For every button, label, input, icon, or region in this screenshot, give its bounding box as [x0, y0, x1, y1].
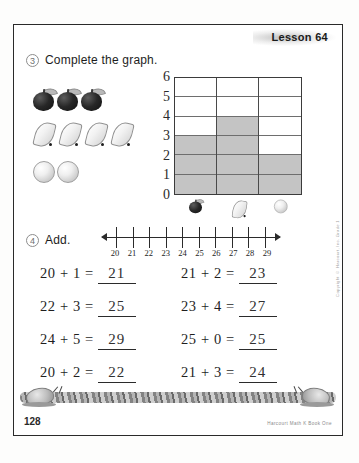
number-line-tick: [199, 227, 200, 248]
number-line-tick: [215, 227, 216, 248]
problem-expression: 22 + 3 =: [40, 298, 94, 315]
problem-answer-blank[interactable]: 25: [239, 331, 277, 350]
lesson-label: Lesson 64: [253, 29, 336, 46]
graph-column-apple[interactable]: [175, 78, 217, 194]
graph-cell[interactable]: [175, 117, 216, 136]
x-axis-banana: [217, 199, 260, 223]
graph-cell[interactable]: [259, 78, 301, 97]
graph-cell[interactable]: [217, 136, 258, 155]
number-line-label: 23: [159, 248, 173, 258]
graph-cell[interactable]: [175, 136, 216, 155]
number-line-tick: [133, 227, 134, 248]
problem-answer-blank[interactable]: 22: [98, 364, 136, 383]
banana-icon: [84, 120, 109, 147]
apple-icon: [56, 88, 79, 111]
exercise-3-instruction: Complete the graph.: [45, 53, 158, 67]
problem-item: 21 + 2 =23: [181, 265, 322, 284]
problem-answer-blank[interactable]: 27: [239, 298, 277, 317]
number-line-tick: [248, 227, 249, 248]
graph-cell[interactable]: [175, 175, 216, 194]
problem-row: 20 + 1 =2121 + 2 =23: [40, 265, 322, 298]
problem-item: 25 + 0 =25: [181, 331, 322, 350]
side-copyright: Copyright © Harcourt, Inc. Grade 1: [335, 220, 340, 297]
problem-item: 20 + 1 =21: [40, 265, 181, 284]
snail-icon: [292, 386, 334, 408]
fruit-key-row-orange: [32, 147, 152, 183]
arrow-left-icon: [101, 233, 107, 241]
apple-icon: [80, 88, 103, 111]
number-line-label: 24: [176, 248, 190, 258]
orange-icon: [274, 199, 288, 213]
y-tick: 4: [163, 112, 170, 120]
worksheet-page: Lesson 64 3 Complete the graph. 6 5 4 3: [13, 24, 343, 436]
graph-y-axis: 6 5 4 3 2 1 0: [154, 73, 170, 199]
problem-list: 20 + 1 =2121 + 2 =2322 + 3 =2523 + 4 =27…: [40, 265, 322, 397]
exercise-4-number: 4: [26, 234, 39, 247]
graph-cell[interactable]: [175, 78, 216, 97]
graph-cell[interactable]: [217, 175, 258, 194]
graph-cell[interactable]: [259, 136, 301, 155]
number-line-label: 29: [260, 248, 274, 258]
insect-trail-icon: [20, 392, 336, 403]
number-line-tick: [116, 227, 117, 248]
problem-item: 21 + 3 =24: [181, 364, 322, 383]
graph-cell[interactable]: [175, 97, 216, 116]
graph-cell[interactable]: [259, 97, 301, 116]
snail-icon: [22, 386, 64, 408]
number-line-label: 21: [125, 248, 139, 258]
number-line-tick: [149, 227, 150, 248]
problem-answer-blank[interactable]: 25: [98, 298, 136, 317]
graph-cell[interactable]: [217, 117, 258, 136]
page-number: 128: [24, 416, 41, 427]
problem-item: 22 + 3 =25: [40, 298, 181, 317]
number-line-tick: [182, 227, 183, 248]
graph-column-orange[interactable]: [259, 78, 301, 194]
graph-cell[interactable]: [175, 155, 216, 174]
graph-grid[interactable]: [174, 77, 302, 195]
problem-expression: 21 + 2 =: [181, 265, 235, 282]
y-tick: 6: [163, 73, 170, 81]
problem-row: 24 + 5 =2925 + 0 =25: [40, 331, 322, 364]
graph-cell[interactable]: [217, 155, 258, 174]
orange-icon: [56, 160, 79, 183]
graph-cell[interactable]: [217, 78, 258, 97]
number-line-tick: [232, 227, 233, 248]
exercise-4-instruction: Add.: [45, 233, 71, 247]
problem-answer-blank[interactable]: 21: [98, 265, 136, 284]
x-axis-apple: [174, 199, 217, 223]
problem-row: 22 + 3 =2523 + 4 =27: [40, 298, 322, 331]
orange-icon: [32, 160, 55, 183]
apple-icon: [188, 199, 202, 213]
banana-icon: [229, 198, 249, 219]
problem-item: 23 + 4 =27: [181, 298, 322, 317]
number-line-label: 22: [142, 248, 156, 258]
number-line-label: 27: [226, 248, 240, 258]
banana-icon: [110, 120, 135, 147]
problem-answer-blank[interactable]: 23: [239, 265, 277, 284]
problem-expression: 20 + 1 =: [40, 265, 94, 282]
banana-icon: [58, 120, 83, 147]
graph-column-banana[interactable]: [217, 78, 259, 194]
exercise-3-number: 3: [26, 54, 39, 67]
y-tick: 2: [163, 152, 170, 160]
apple-icon: [32, 88, 55, 111]
problem-answer-blank[interactable]: 24: [239, 364, 277, 383]
exercise-4-header: 4 Add.: [26, 233, 71, 247]
problem-answer-blank[interactable]: 29: [98, 331, 136, 350]
fruit-key-row-apple: [32, 75, 152, 111]
arrow-right-icon: [275, 233, 281, 241]
x-axis-orange: [259, 199, 302, 223]
banana-icon: [32, 120, 57, 147]
graph-cell[interactable]: [259, 175, 301, 194]
fruit-key: [32, 75, 152, 183]
exercise-3-header: 3 Complete the graph.: [26, 53, 158, 67]
problem-expression: 24 + 5 =: [40, 331, 94, 348]
number-line-label: 26: [209, 248, 223, 258]
graph-cell[interactable]: [259, 155, 301, 174]
graph-x-axis: [174, 199, 302, 223]
number-line-label: 25: [192, 248, 206, 258]
number-line: 20212223242526272829: [102, 227, 280, 257]
graph-cell[interactable]: [259, 117, 301, 136]
publisher-credit: Harcourt Math K Book One: [267, 421, 332, 426]
graph-cell[interactable]: [217, 97, 258, 116]
